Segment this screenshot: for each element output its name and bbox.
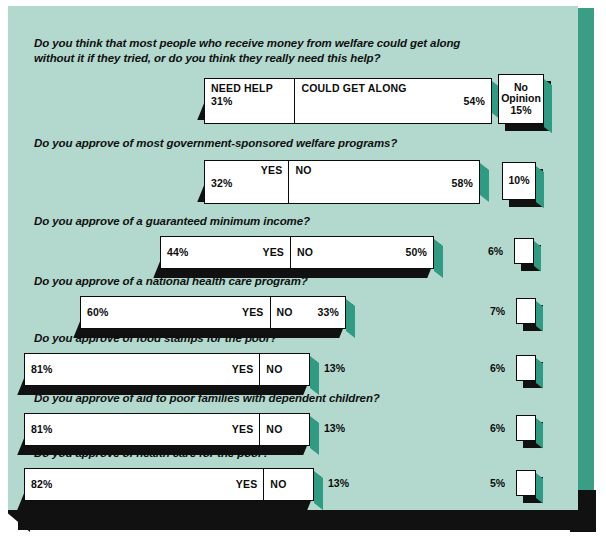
poster-bottom-shadow xyxy=(18,508,578,530)
no-opinion-side-3 xyxy=(534,241,541,271)
answer-bar-4: 60% YES NO 33% xyxy=(80,296,346,330)
question-text-2: Do you approve of most government-sponso… xyxy=(34,136,504,151)
no-opinion-face-7 xyxy=(516,470,536,496)
segment-label-left-5: YES xyxy=(232,363,254,375)
segment-value-left-7: 82% xyxy=(31,478,53,490)
no-opinion-face-6 xyxy=(516,415,536,441)
question-text-6: Do you approve of aid to poor families w… xyxy=(34,391,504,406)
bar-face-6: 81% YES NO xyxy=(24,413,310,446)
bar-side-2 xyxy=(480,163,489,202)
bar-segment-right-7: NO xyxy=(263,469,313,500)
no-opinion-side-6 xyxy=(536,418,543,448)
segment-value-right-6: 13% xyxy=(324,422,345,434)
bar-side-3 xyxy=(434,239,443,278)
segment-value-left-4: 60% xyxy=(87,306,109,318)
no-opinion-value-3: 6% xyxy=(488,245,503,257)
segment-value-right-1: 54% xyxy=(463,95,485,107)
segment-value-right-5: 13% xyxy=(324,362,345,374)
poster-face: Do you think that most people who receiv… xyxy=(8,6,578,510)
bar-segment-right-5: NO xyxy=(259,354,309,385)
answer-bar-7: 82% YES NO 13% xyxy=(24,468,314,502)
bar-segment-right-1: COULD GET ALONG 54% xyxy=(294,79,491,123)
bar-segment-left-1: NEED HELP 31% xyxy=(205,79,294,123)
segment-label-right-5: NO xyxy=(266,363,282,375)
no-opinion-side-2 xyxy=(536,166,544,208)
segment-label-left-3: YES xyxy=(262,246,284,258)
no-opinion-side-5 xyxy=(536,358,543,388)
segment-label-left-2: YES xyxy=(261,164,283,176)
segment-label-left-6: YES xyxy=(232,423,254,435)
bar-segment-left-2: YES 32% xyxy=(205,161,288,203)
answer-bar-5: 81% YES NO 13% xyxy=(24,353,310,387)
poll-infographic: Do you think that most people who receiv… xyxy=(0,0,606,545)
segment-value-left-6: 81% xyxy=(31,423,53,435)
segment-label-left-7: YES xyxy=(236,478,258,490)
question-text-1: Do you think that most people who receiv… xyxy=(34,36,504,66)
bar-face-7: 82% YES NO xyxy=(24,468,314,501)
segment-value-left-3: 44% xyxy=(167,246,189,258)
segment-value-left-1: 31% xyxy=(211,95,233,107)
question-text-5: Do you approve of food stamps for the po… xyxy=(34,331,504,346)
bar-face-2: YES 32% NO 58% xyxy=(204,160,480,204)
segment-value-right-3: 50% xyxy=(405,246,427,258)
bar-segment-left-6: 81% YES xyxy=(25,414,259,445)
no-opinion-value-2: 10% xyxy=(508,175,529,187)
bar-segment-left-3: 44% YES xyxy=(161,237,290,268)
bar-face-5: 81% YES NO xyxy=(24,353,310,386)
no-opinion-side-1 xyxy=(544,79,552,133)
question-text-4: Do you approve of a national health care… xyxy=(34,274,504,289)
segment-label-left-1: NEED HELP xyxy=(211,82,273,94)
no-opinion-face-2: 10% xyxy=(502,162,536,200)
bar-segment-right-2: NO 58% xyxy=(288,161,479,203)
no-opinion-value-4: 7% xyxy=(490,305,505,317)
bar-side-5 xyxy=(310,356,319,395)
no-opinion-face-1: No Opinion 15% xyxy=(498,74,544,124)
bar-segment-left-7: 82% YES xyxy=(25,469,263,500)
answer-bar-1: NEED HELP 31% COULD GET ALONG 54% xyxy=(204,78,492,112)
no-opinion-face-4 xyxy=(516,298,536,324)
bar-side-7 xyxy=(314,471,323,510)
segment-value-left-5: 81% xyxy=(31,363,53,375)
bar-segment-right-3: NO 50% xyxy=(290,237,433,268)
segment-label-right-2: NO xyxy=(295,164,311,176)
question-text-3: Do you approve of a guaranteed minimum i… xyxy=(34,214,504,229)
segment-label-right-7: NO xyxy=(270,478,286,490)
no-opinion-side-4 xyxy=(536,301,543,331)
answer-bar-2: YES 32% NO 58% xyxy=(204,160,480,194)
no-opinion-face-5 xyxy=(516,355,536,381)
no-opinion-face-3 xyxy=(514,238,534,264)
bar-segment-right-4: NO 33% xyxy=(270,297,345,328)
answer-bar-6: 81% YES NO 13% xyxy=(24,413,310,447)
segment-label-right-1: COULD GET ALONG xyxy=(301,82,406,94)
bar-segment-left-4: 60% YES xyxy=(81,297,270,328)
bar-segment-right-6: NO xyxy=(259,414,309,445)
segment-value-left-2: 32% xyxy=(211,177,233,189)
no-opinion-value-5: 6% xyxy=(490,362,505,374)
no-opinion-side-7 xyxy=(536,473,543,503)
no-opinion-value-7: 5% xyxy=(490,477,505,489)
segment-value-right-2: 58% xyxy=(451,177,473,189)
segment-label-left-4: YES xyxy=(242,306,264,318)
no-opinion-value-1: 15% xyxy=(510,105,531,117)
segment-value-right-4: 33% xyxy=(317,306,339,318)
segment-value-right-7: 13% xyxy=(328,477,349,489)
bar-face-1: NEED HELP 31% COULD GET ALONG 54% xyxy=(204,78,492,124)
bar-face-4: 60% YES NO 33% xyxy=(80,296,346,329)
segment-label-right-3: NO xyxy=(297,246,313,258)
bar-segment-left-5: 81% YES xyxy=(25,354,259,385)
answer-bar-3: 44% YES NO 50% xyxy=(160,236,434,270)
no-opinion-value-6: 6% xyxy=(490,422,505,434)
segment-label-right-4: NO xyxy=(277,306,293,318)
bar-face-3: 44% YES NO 50% xyxy=(160,236,434,269)
question-text-7: Do you approve of health care for the po… xyxy=(34,446,504,461)
segment-label-right-6: NO xyxy=(266,423,282,435)
